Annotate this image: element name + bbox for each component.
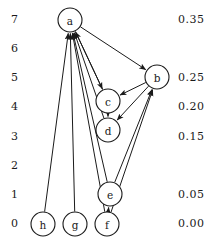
node-label-c: c [105, 96, 111, 108]
edge-h-to-a [45, 33, 69, 211]
rank-axis-tick-5: 5 [0, 72, 18, 83]
node-label-e: e [107, 189, 113, 201]
node-c[interactable]: c [96, 89, 120, 113]
node-label-a: a [67, 15, 73, 27]
node-a[interactable]: a [58, 8, 82, 32]
rank-axis-tick-7: 7 [0, 14, 18, 25]
value-axis-tick-0-15: 0.15 [178, 131, 222, 142]
rank-axis-tick-2: 2 [0, 160, 18, 171]
rank-axis-tick-3: 3 [0, 131, 18, 142]
value-axis-tick-0-05: 0.05 [178, 189, 222, 200]
rank-axis-tick-1: 1 [0, 189, 18, 200]
node-g[interactable]: g [63, 212, 87, 236]
edge-layer [45, 27, 153, 212]
node-layer: abcdefgh [31, 8, 169, 236]
node-e[interactable]: e [98, 182, 122, 206]
value-axis-tick-0-20: 0.20 [178, 101, 222, 112]
node-f[interactable]: f [95, 212, 119, 236]
rank-axis-tick-0: 0 [0, 218, 18, 229]
value-axis-tick-0-25: 0.25 [178, 72, 222, 83]
value-axis-tick-0-00: 0.00 [178, 218, 222, 229]
node-label-d: d [105, 125, 112, 137]
node-d[interactable]: d [96, 118, 120, 142]
node-label-h: h [40, 219, 47, 231]
value-axis-tick-0-35: 0.35 [178, 14, 222, 25]
edge-g-to-a [70, 34, 74, 212]
graph-figure: abcdefgh 76543210 0.350.250.200.150.050.… [0, 0, 222, 244]
node-label-b: b [154, 72, 161, 84]
rank-axis-tick-6: 6 [0, 43, 18, 54]
rank-axis-tick-4: 4 [0, 101, 18, 112]
node-h[interactable]: h [31, 212, 55, 236]
node-label-g: g [72, 219, 79, 231]
graph-canvas: abcdefgh [0, 0, 222, 244]
node-b[interactable]: b [145, 65, 169, 89]
